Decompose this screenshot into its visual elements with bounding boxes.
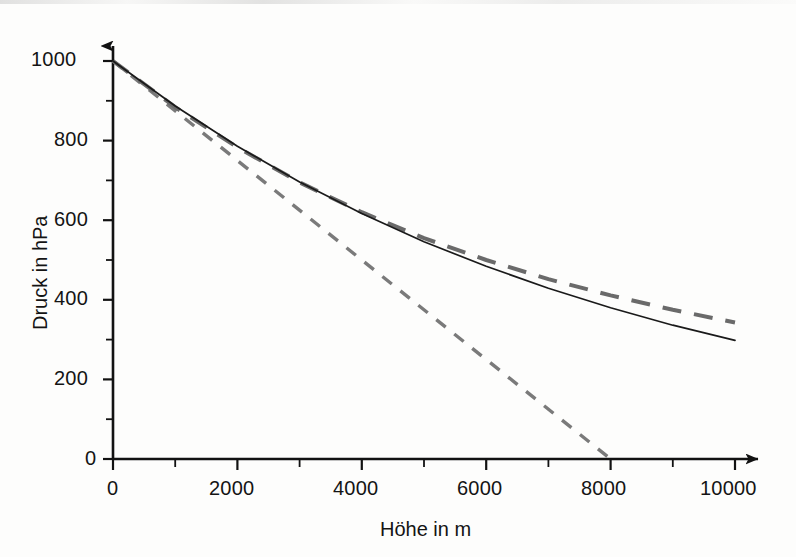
x-tick-label-2000: 2000 — [209, 477, 254, 500]
series-taylor-approximation-line — [113, 61, 735, 323]
x-axis-ticks — [113, 459, 735, 470]
y-tick-label-0: 0 — [85, 447, 96, 470]
x-axis-title: Höhe in m — [380, 518, 471, 541]
x-tick-label-8000: 8000 — [581, 477, 626, 500]
chart-plot-area — [0, 0, 796, 557]
y-tick-label-800: 800 — [54, 128, 88, 151]
series-linear-approximation — [113, 61, 611, 459]
x-tick-label-6000: 6000 — [457, 477, 502, 500]
y-tick-label-200: 200 — [54, 367, 88, 390]
x-tick-label-0: 0 — [107, 477, 118, 500]
y-tick-label-400: 400 — [54, 287, 88, 310]
x-tick-label-10000: 10000 — [700, 477, 757, 500]
y-tick-label-1000: 1000 — [31, 48, 76, 71]
y-axis-ticks — [103, 61, 113, 459]
x-tick-label-4000: 4000 — [333, 477, 378, 500]
y-axis-title: Druck in hPa — [29, 216, 52, 331]
chart-page: 1000 800 600 400 200 0 0 2000 4000 6000 … — [0, 0, 796, 557]
y-tick-label-600: 600 — [54, 208, 88, 231]
series-barometric-exact — [113, 61, 735, 340]
